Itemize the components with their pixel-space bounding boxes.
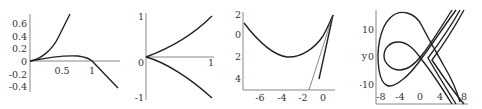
y-tick: 0 <box>368 51 374 62</box>
x-tick: -2 <box>298 92 307 103</box>
y-tick: 0 <box>21 56 27 67</box>
y-tick: -1 <box>135 92 144 103</box>
chart-panel-4: 10 0 y -10 -8 -4 0 4 8 <box>360 0 482 109</box>
y-tick: -4 <box>235 73 241 84</box>
x-tick: 8 <box>461 91 467 102</box>
x-tick: -8 <box>376 91 385 102</box>
y-tick: -10 <box>360 79 374 90</box>
x-tick: 1 <box>208 57 214 68</box>
y-tick: -0.2 <box>9 69 27 80</box>
line-thick <box>319 15 333 79</box>
curve-lower <box>146 57 212 98</box>
curve-inner-loop <box>384 10 452 104</box>
line-thin <box>309 15 333 90</box>
y-tick: 0.4 <box>12 31 27 42</box>
x-tick: 0 <box>320 92 326 103</box>
y-axis-label: y <box>361 50 368 61</box>
x-tick: 4 <box>437 91 443 102</box>
curve-upper <box>30 14 70 61</box>
chart-2-svg: 1 -1 0 1 <box>130 0 230 109</box>
x-tick: 0 <box>417 91 423 102</box>
y-tick: 10 <box>362 24 374 35</box>
curve-parabola <box>244 15 333 57</box>
x-tick: 0.5 <box>54 65 69 76</box>
y-tick: 2 <box>235 9 241 20</box>
y-tick: 0.2 <box>12 43 27 54</box>
chart-panel-3: 2 0 -2 -4 -6 -4 -2 0 <box>235 0 360 109</box>
y-tick: 0 <box>235 29 241 40</box>
chart-4-svg: 10 0 y -10 -8 -4 0 4 8 <box>360 0 482 109</box>
chart-panel-2: 1 -1 0 1 <box>130 0 230 109</box>
chart-1-svg: 0.6 0.4 0.2 0 -0.2 -0.4 0.5 1 <box>0 0 130 109</box>
x-tick: 0 <box>138 57 144 68</box>
x-tick: 1 <box>89 65 95 76</box>
y-tick: 1 <box>138 11 144 22</box>
x-tick: -4 <box>277 92 286 103</box>
y-tick: 0.6 <box>12 18 27 29</box>
chart-3-svg: 2 0 -2 -4 -6 -4 -2 0 <box>235 0 360 109</box>
y-tick: -2 <box>235 51 241 62</box>
y-tick: -0.4 <box>9 81 27 92</box>
x-tick: -6 <box>255 92 264 103</box>
chart-panel-1: 0.6 0.4 0.2 0 -0.2 -0.4 0.5 1 <box>0 0 130 109</box>
x-tick: -4 <box>395 91 404 102</box>
curve-upper <box>146 16 212 57</box>
